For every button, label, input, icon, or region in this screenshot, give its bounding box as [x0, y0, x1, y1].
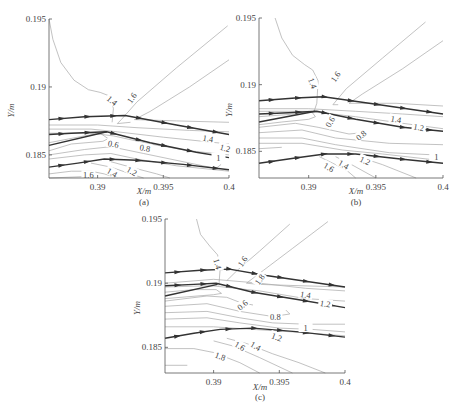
streamline-arrow [110, 114, 117, 118]
x-tick-label: 0.39 [206, 377, 222, 387]
contour-line [349, 41, 443, 106]
contour-label: 1 [303, 323, 307, 333]
x-tick-label: 0.4 [223, 182, 235, 192]
contour-label: 0.8 [270, 312, 281, 322]
y-tick-label: 0.185 [236, 146, 257, 156]
streamline-arrow [58, 116, 65, 121]
streamline-arrow [400, 125, 407, 130]
contour-label: 0.8 [139, 142, 151, 154]
contour-label: 0.8 [354, 128, 369, 142]
streamline-arrow [110, 157, 117, 161]
panel-label: (a) [139, 197, 149, 207]
x-tick-label: 0.4 [339, 377, 351, 387]
contour-label: 1.6 [235, 254, 249, 268]
x-tick-label: 0.395 [269, 377, 290, 387]
y-tick-label: 0.19 [146, 278, 162, 288]
contour-line [259, 138, 443, 155]
y-axis-label: Y/m [224, 103, 234, 118]
contour-line [197, 219, 221, 286]
streamline [259, 154, 443, 163]
contour-line [259, 147, 282, 148]
streamline-arrow [295, 96, 302, 100]
streamline-arrow [84, 115, 91, 119]
panel-b: 1.41.60.60.81.41.211.61.41.20.1950.190.1… [224, 13, 449, 207]
streamline-arrow [426, 128, 433, 133]
contour-label: 1 [434, 152, 438, 162]
contour-line [259, 130, 443, 145]
contour-label: 1.6 [83, 170, 94, 180]
figure: 1.41.60.60.81.41.211.61.41.20.1950.190.1… [0, 0, 454, 414]
y-tick-label: 0.195 [142, 214, 163, 224]
contour-label: 1.4 [105, 93, 120, 108]
streamline-arrow [200, 268, 207, 272]
x-tick-label: 0.39 [301, 182, 317, 192]
contour-label: 1.6 [125, 91, 139, 105]
streamline-arrow [135, 158, 142, 163]
panel-a: 1.41.60.60.81.41.211.61.41.20.1950.190.1… [6, 14, 235, 207]
contour-line [333, 22, 426, 105]
panel-label: (c) [255, 392, 265, 402]
y-tick-label: 0.185 [142, 342, 163, 352]
y-axis-label: Y/m [132, 301, 142, 316]
contour-label: 1 [216, 153, 220, 163]
axes [49, 19, 229, 178]
x-tick-label: 0.395 [153, 182, 174, 192]
contour-line [117, 26, 227, 124]
contour-label: 0.6 [235, 298, 250, 312]
y-tick-label: 0.19 [240, 80, 256, 90]
x-axis-label: X/m [136, 186, 152, 196]
contour-line [134, 60, 229, 123]
contour-label: 1.2 [413, 121, 425, 133]
x-tick-label: 0.39 [90, 182, 106, 192]
y-tick-label: 0.19 [30, 82, 46, 92]
y-tick-label: 0.195 [236, 13, 257, 23]
contour-line [165, 311, 345, 324]
x-tick-label: 0.395 [366, 182, 387, 192]
streamline-arrow [400, 157, 407, 162]
x-tick-label: 0.4 [437, 182, 449, 192]
x-axis-label: X/m [348, 186, 364, 196]
contour-line [49, 19, 113, 122]
streamline-arrow [85, 130, 92, 134]
y-axis-label: Y/m [6, 103, 16, 118]
panel-c: 1.41.61.80.60.81.41.211.21.61.41.80.1950… [132, 214, 351, 402]
streamline-arrow [269, 111, 276, 115]
streamline-arrow [200, 282, 207, 286]
contour-label: 0.6 [107, 138, 119, 150]
y-tick-label: 0.185 [26, 150, 47, 160]
streamline-arrow [174, 270, 181, 274]
streamline-arrow [58, 131, 65, 135]
contour-label: 1.6 [328, 69, 342, 83]
streamline [165, 283, 345, 307]
streamline-arrow [269, 97, 276, 102]
streamline-arrow [347, 152, 354, 156]
contour-line [49, 125, 229, 132]
contour-line [165, 349, 260, 373]
x-axis-label: X/m [252, 382, 268, 392]
y-tick-label: 0.195 [26, 14, 47, 24]
contour-label: 1.2 [319, 298, 331, 310]
panel-label: (b) [351, 197, 362, 207]
